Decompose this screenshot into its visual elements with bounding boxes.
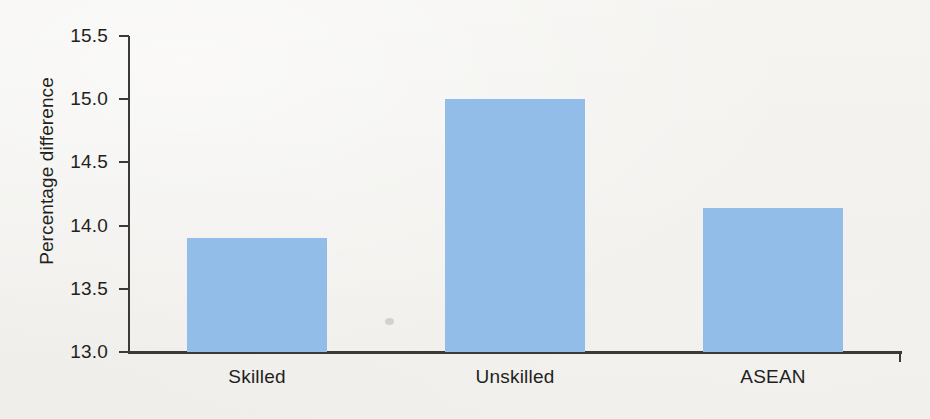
y-axis-tick-label: 14.0: [30, 215, 108, 237]
x-axis-end-tick: [899, 351, 901, 362]
y-axis-tick-label: 13.5: [30, 278, 108, 300]
y-axis-tick-label: 14.5: [30, 151, 108, 173]
category-label-asean: ASEAN: [673, 366, 873, 388]
y-axis-tick-label: 15.0: [30, 88, 108, 110]
y-axis-tick-label: 13.0: [30, 341, 108, 363]
category-label-skilled: Skilled: [157, 366, 357, 388]
plot-area: [128, 36, 902, 352]
bar-asean[interactable]: [703, 208, 843, 352]
bar-skilled[interactable]: [187, 238, 327, 352]
category-label-unskilled: Unskilled: [415, 366, 615, 388]
bar-chart-figure: Percentage difference 15.515.014.514.013…: [0, 0, 930, 419]
y-axis-tick-label: 15.5: [30, 25, 108, 47]
bar-unskilled[interactable]: [445, 99, 585, 352]
